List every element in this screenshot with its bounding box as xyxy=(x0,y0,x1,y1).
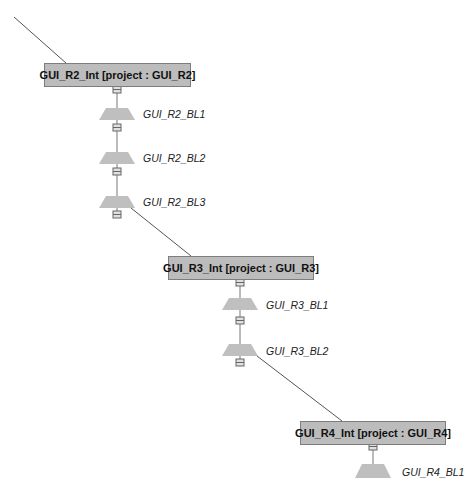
baseline-icon[interactable] xyxy=(355,464,391,478)
edge-r2bl3-r3 xyxy=(131,208,191,256)
integration-node-r4[interactable]: GUI_R4_Int [project : GUI_R4] xyxy=(300,421,446,445)
baseline-label: GUI_R3_BL1 xyxy=(266,299,328,311)
integration-node-r2[interactable]: GUI_R2_Int [project : GUI_R2] xyxy=(44,63,191,87)
baseline-label: GUI_R3_BL2 xyxy=(266,345,328,357)
edge-incoming-r2 xyxy=(14,17,66,63)
baseline-label: GUI_R2_BL3 xyxy=(143,196,205,208)
baseline-icon[interactable] xyxy=(99,152,135,164)
baseline-icon[interactable] xyxy=(222,344,258,356)
integration-node-r3[interactable]: GUI_R3_Int [project : GUI_R3] xyxy=(168,256,314,280)
baseline-icon[interactable] xyxy=(222,298,258,310)
baseline-icon[interactable] xyxy=(99,196,135,208)
baseline-label: GUI_R2_BL2 xyxy=(143,152,205,164)
baseline-label: GUI_R2_BL1 xyxy=(143,108,205,120)
diagram-canvas: GUI_R2_Int [project : GUI_R2] GUI_R2_BL1… xyxy=(0,0,475,501)
baseline-label: GUI_R4_BL1 xyxy=(402,466,464,478)
edge-r3bl2-r4 xyxy=(257,356,342,421)
baseline-icon[interactable] xyxy=(99,108,135,120)
